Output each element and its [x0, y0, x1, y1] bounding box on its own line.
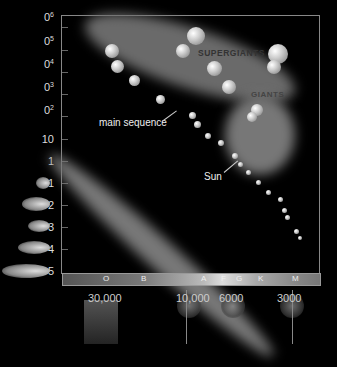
spectral-class-m: M — [292, 274, 299, 284]
star-icon — [129, 75, 140, 86]
y-tick-label: 04 — [44, 59, 54, 70]
star-icon — [218, 140, 224, 146]
y-tick — [62, 227, 68, 228]
spectral-class-bar — [62, 273, 321, 286]
luminosity-glow — [22, 197, 50, 211]
star-icon — [187, 27, 205, 45]
spectral-class-a: A — [201, 274, 206, 284]
y-tick — [62, 205, 68, 206]
luminosity-glow — [18, 241, 50, 254]
star-icon — [194, 121, 201, 128]
star-icon — [267, 60, 281, 74]
temp-label-10000: 10,000 — [176, 292, 210, 304]
y-tick-label: 03 — [44, 82, 54, 93]
y-tick-label: 10 — [42, 134, 54, 145]
spectral-class-g: G — [236, 274, 242, 284]
giants-label: GIANTS — [251, 90, 284, 99]
star-icon — [294, 229, 299, 234]
star-icon — [266, 190, 271, 195]
luminosity-glow — [28, 220, 50, 232]
star-icon — [189, 112, 196, 119]
temp-label-3000: 3000 — [277, 292, 301, 304]
main-sequence-label: main sequence — [99, 117, 167, 128]
spectral-class-b: B — [141, 274, 146, 284]
y-tick — [62, 139, 68, 140]
star-icon — [232, 153, 238, 159]
sun-label: Sun — [204, 171, 222, 182]
star-icon — [222, 80, 236, 94]
star-icon — [156, 95, 165, 104]
y-tick-label: 02 — [44, 105, 54, 116]
luminosity-glow — [36, 177, 50, 189]
spectral-class-o: O — [103, 274, 109, 284]
star-icon — [176, 44, 190, 58]
star-icon — [205, 133, 211, 139]
star-icon — [298, 236, 302, 240]
star-icon — [256, 180, 261, 185]
y-tick — [62, 72, 68, 73]
temp-label-30000: 30,000 — [88, 292, 122, 304]
star-icon — [285, 215, 290, 220]
star-icon — [282, 208, 287, 213]
y-tick-label: 06 — [44, 12, 54, 23]
y-tick-label: 05 — [44, 36, 54, 47]
temp-label-6000: 6000 — [219, 292, 243, 304]
spectral-class-k: K — [258, 274, 263, 284]
y-tick — [62, 27, 68, 28]
luminosity-glow — [2, 264, 50, 278]
sun-star-icon — [238, 162, 243, 167]
star-icon — [105, 44, 119, 58]
y-tick — [62, 94, 68, 95]
star-icon — [247, 112, 257, 122]
temperature-glow — [84, 300, 118, 344]
star-icon — [246, 170, 251, 175]
y-tick — [62, 50, 68, 51]
star-icon — [111, 60, 124, 73]
spectral-class-f: F — [221, 274, 226, 284]
star-icon — [278, 197, 283, 202]
supergiants-label: SUPERGIANTS — [198, 48, 265, 58]
star-icon — [207, 61, 222, 76]
y-tick — [62, 116, 68, 117]
y-tick — [62, 249, 68, 250]
